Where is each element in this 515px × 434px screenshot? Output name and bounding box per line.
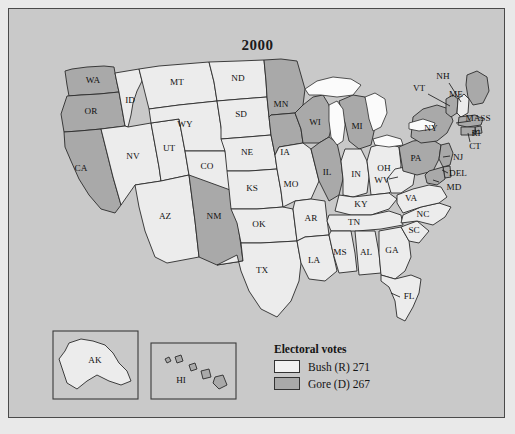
state-label-IN: IN	[351, 169, 361, 179]
state-label-WI: WI	[309, 117, 321, 127]
state-label-WY: WY	[177, 119, 193, 129]
state-label-DEL: DEL	[449, 168, 467, 178]
state-label-NJ: NJ	[453, 152, 464, 162]
state-label-IL: IL	[323, 167, 332, 177]
state-label-OK: OK	[252, 219, 266, 229]
state-label-KS: KS	[246, 183, 258, 193]
state-label-MI: MI	[351, 121, 362, 131]
state-label-WA: WA	[86, 75, 101, 85]
legend-label-gore: Gore (D) 267	[308, 378, 370, 390]
state-label-KY: KY	[354, 199, 368, 209]
state-label-ND: ND	[231, 73, 245, 83]
state-label-GA: GA	[385, 245, 399, 255]
state-label-AZ: AZ	[159, 211, 172, 221]
state-label-NC: NC	[417, 209, 430, 219]
legend-label-bush: Bush (R) 271	[308, 361, 370, 373]
lake-superior	[305, 77, 361, 97]
state-label-CO: CO	[201, 161, 214, 171]
legend-item-gore[interactable]: Gore (D) 267	[274, 377, 444, 390]
state-label-CT: CT	[469, 141, 481, 151]
state-HI[interactable]	[165, 355, 227, 389]
state-label-NY: NY	[424, 123, 438, 133]
state-label-MN: MN	[274, 99, 289, 109]
state-label-NH: NH	[436, 71, 450, 81]
state-label-AR: AR	[305, 213, 319, 223]
legend-item-bush[interactable]: Bush (R) 271	[274, 360, 444, 373]
state-ME[interactable]	[466, 71, 489, 105]
state-label-IA: IA	[280, 147, 290, 157]
state-label-MT: MT	[170, 77, 184, 87]
state-label-UT: UT	[163, 143, 176, 153]
state-label-LA: LA	[308, 255, 321, 265]
state-label-OH: OH	[377, 163, 391, 173]
state-label-MD: MD	[447, 182, 462, 192]
state-label-SD: SD	[235, 109, 247, 119]
legend-swatch-gore	[274, 377, 300, 390]
state-FL[interactable]	[381, 275, 421, 321]
state-label-TX: TX	[256, 265, 269, 275]
inset-box-hawaii	[151, 343, 236, 399]
state-label-TN: TN	[348, 217, 361, 227]
state-label-SC: SC	[408, 225, 419, 235]
state-label-CA: CA	[75, 163, 88, 173]
lake-erie	[373, 135, 403, 147]
state-label-FL: FL	[404, 291, 415, 301]
state-label-VT: VT	[413, 83, 426, 93]
state-label-MS: MS	[333, 247, 346, 257]
map-figure: 2000	[0, 0, 515, 434]
state-label-WV: WV	[374, 175, 390, 185]
state-label-AK: AK	[88, 355, 102, 365]
state-label-ID: ID	[125, 95, 135, 105]
state-label-MASS: MASS	[465, 113, 490, 123]
state-label-PA: PA	[411, 153, 422, 163]
state-label-NV: NV	[126, 151, 140, 161]
state-label-RI: RI	[471, 128, 480, 138]
legend-swatch-bush	[274, 360, 300, 373]
legend-title: Electoral votes	[274, 343, 444, 355]
figure-frame: 2000	[8, 8, 505, 418]
state-label-NE: NE	[241, 147, 254, 157]
legend: Electoral votes Bush (R) 271 Gore (D) 26…	[264, 343, 444, 394]
state-label-HI: HI	[176, 375, 186, 385]
state-label-MO: MO	[284, 179, 299, 189]
state-label-NM: NM	[207, 211, 222, 221]
state-label-ME: ME	[449, 89, 463, 99]
state-label-VA: VA	[405, 193, 417, 203]
state-NJ[interactable]	[439, 143, 453, 167]
state-label-AL: AL	[360, 247, 373, 257]
state-label-OR: OR	[85, 106, 99, 116]
